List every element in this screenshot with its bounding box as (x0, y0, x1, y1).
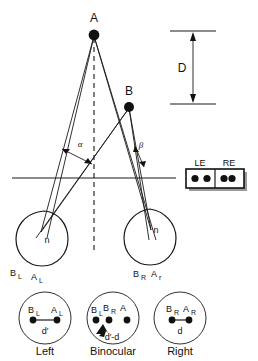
left-view-dot-bl (30, 317, 37, 324)
depth-arrow-up (190, 32, 196, 41)
right-view-dot-ar (186, 317, 193, 324)
angle-beta-label: β (138, 140, 144, 150)
ray-b-to-left-retina (36, 108, 129, 238)
right-eye-nodal-label: n (153, 225, 158, 235)
left-eyeball-outline (16, 211, 68, 266)
re-dot-1 (220, 175, 227, 182)
le-panel-label: LE (194, 158, 205, 168)
left-view-circle: B L A L d′ Left (19, 292, 71, 357)
binocular-view-caption: Binocular (90, 345, 136, 357)
angle-beta-arrow-bottom (139, 161, 146, 167)
point-b-dot (124, 102, 134, 112)
left-eye-image-label-bl: B L (10, 268, 22, 280)
point-b-label: B (125, 84, 133, 98)
binocular-view-label-bl: B L (91, 305, 103, 317)
right-view-outline (154, 292, 206, 344)
right-eye-br-main: B (133, 269, 139, 279)
binocular-view-br-sub: R (111, 308, 116, 315)
right-view-br-sub: R (174, 309, 179, 316)
ray-a-to-left-retina (47, 36, 94, 238)
left-view-al-sub: L (59, 310, 63, 317)
angle-alpha: α (62, 139, 92, 164)
ray-b-to-right-retina (129, 108, 149, 240)
left-eye-image-label-al: A L (31, 272, 43, 284)
binocular-view-dot-a (124, 317, 131, 324)
right-eye-image-label-br: B R (133, 269, 146, 281)
right-view-ar-main: A (183, 304, 189, 314)
le-re-panel[interactable]: LE RE (186, 158, 247, 191)
binocular-view-br-main: B (103, 303, 109, 313)
re-dot-2 (228, 175, 235, 182)
right-view-separation-label: d (177, 326, 182, 336)
angle-alpha-label: α (78, 139, 83, 149)
stereo-geometry-figure: A B D α β (0, 0, 258, 361)
point-a-label: A (90, 11, 98, 25)
left-eye-al-sub: L (39, 277, 43, 284)
binocular-view-dot-bl (93, 317, 100, 324)
left-eye-nodal-label: n (44, 235, 49, 245)
le-dot-2 (203, 175, 210, 182)
right-view-label-br: B R (166, 304, 179, 316)
binocular-view-circle: B L B R A d′-d Binocular (87, 292, 139, 357)
left-view-outline (19, 292, 71, 344)
re-panel-label: RE (223, 158, 236, 168)
point-a: A (89, 11, 100, 40)
right-eye-ar-main: A (151, 269, 157, 279)
left-eye-al-main: A (31, 272, 37, 282)
right-eyeball-outline (124, 209, 176, 265)
binocular-view-separation-label: d′-d (105, 332, 120, 342)
right-view-label-ar: A R (183, 304, 196, 316)
left-view-bl-sub: L (36, 310, 40, 317)
ray-a-to-left-eye (41, 36, 94, 232)
right-view-ar-sub: R (191, 309, 196, 316)
left-eyeball: n B L A L (10, 211, 68, 284)
left-view-al-main: A (51, 305, 57, 315)
right-eye-ar-sub: r (159, 274, 162, 281)
right-eye-image-label-ar: A r (151, 269, 162, 281)
right-view-circle: B R A R d Right (154, 292, 206, 357)
left-view-label-bl: B L (28, 305, 40, 317)
left-view-bl-main: B (28, 305, 34, 315)
binocular-view-label-br: B R (103, 303, 116, 315)
right-view-dot-br (169, 317, 176, 324)
diagram-canvas: A B D α β (0, 0, 258, 361)
depth-measure-d: D (170, 31, 216, 104)
left-eye-bl-sub: L (18, 273, 22, 280)
point-a-dot (89, 30, 100, 41)
ray-bundle (36, 36, 156, 240)
right-view-caption: Right (167, 345, 193, 357)
binocular-view-bl-main: B (91, 305, 97, 315)
left-view-dot-al (54, 317, 61, 324)
right-eye-br-sub: R (141, 274, 146, 281)
point-b: B (124, 84, 134, 112)
left-view-caption: Left (36, 345, 54, 357)
right-view-br-main: B (166, 304, 172, 314)
binocular-view-a-main: A (120, 303, 126, 313)
left-view-label-al: A L (51, 305, 63, 317)
depth-label-d: D (178, 61, 187, 75)
binocular-view-dot-br (106, 317, 113, 324)
le-dot-1 (191, 175, 198, 182)
angle-beta: β (133, 140, 146, 167)
left-view-separation-label: d′ (42, 326, 49, 336)
depth-arrow-down (190, 94, 196, 103)
left-eye-bl-main: B (10, 268, 16, 278)
